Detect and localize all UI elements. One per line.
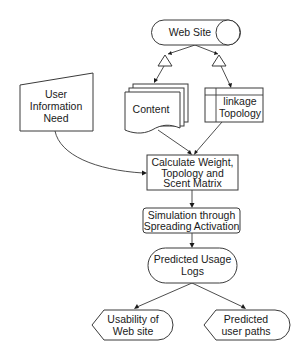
node-predicted-user-paths: Predicted user paths [204,310,290,340]
edge-usagelogs-usability [134,283,192,309]
node-label: Logs [181,265,204,277]
node-label: linkage [223,95,256,107]
edge-linkage-calculate [194,122,222,155]
node-label: Web Site [169,26,212,38]
node-label: Scent Matrix [163,177,222,189]
node-label: Need [43,112,68,124]
node-label: Content [133,103,170,115]
edge-userneed-calculate [55,131,147,176]
node-usability: Usability of Web site [92,310,173,340]
node-linkage-topology: linkage Topology [205,88,263,122]
flowchart-diagram: Web Site User Information Need Content l… [0,0,300,356]
node-label: Web site [113,325,154,337]
edge-content-calculate [158,130,192,155]
node-user-information-need: User Information Need [20,73,93,131]
edge-usagelogs-userpaths [192,283,246,309]
edge-simulation-usagelogs [190,233,195,248]
node-simulation: Simulation through Spreading Activation [143,208,240,233]
node-label: Predicted Usage [154,253,232,265]
node-predicted-usage-logs: Predicted Usage Logs [148,248,237,283]
node-label: Information [30,100,83,112]
node-label: Topology [219,107,262,119]
node-web-site: Web Site [152,20,241,45]
edge-website-linkage [195,45,232,88]
merge-triangle-icon [212,55,226,66]
node-label: User [45,88,68,100]
edge-calculate-simulation [190,190,195,208]
node-label: Usability of [107,313,158,325]
node-calculate-weight: Calculate Weight, Topology and Scent Mat… [147,155,238,190]
node-content: Content [125,84,188,133]
edge-website-content [154,45,195,83]
node-label: Spreading Activation [144,220,240,232]
node-label: Predicted [224,313,269,325]
node-label: Simulation through [148,209,236,221]
merge-triangle-icon [158,55,172,66]
node-label: user paths [221,325,270,337]
